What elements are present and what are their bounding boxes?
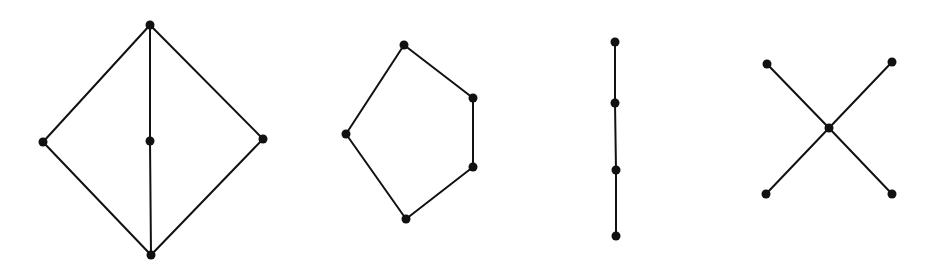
edge-center-br bbox=[829, 128, 892, 194]
node-center bbox=[825, 124, 834, 133]
edge-center-tl bbox=[767, 64, 829, 128]
graph-star-4 bbox=[762, 58, 897, 199]
edge-b-e bbox=[43, 142, 151, 255]
node-e bbox=[342, 130, 351, 139]
edge-center-bl bbox=[766, 128, 829, 194]
node-a bbox=[146, 21, 155, 30]
node-d bbox=[612, 232, 621, 241]
edge-a-b bbox=[43, 25, 150, 142]
graph-diamond-with-subdivided-diagonal bbox=[39, 21, 268, 260]
node-c bbox=[469, 163, 478, 172]
node-d bbox=[259, 135, 268, 144]
node-d bbox=[402, 215, 411, 224]
node-a bbox=[611, 38, 620, 47]
graph-path-4 bbox=[611, 38, 621, 241]
node-b bbox=[611, 99, 620, 108]
node-c bbox=[612, 166, 621, 175]
node-a bbox=[400, 41, 409, 50]
edge-d-e bbox=[151, 139, 263, 255]
node-tl bbox=[763, 60, 772, 69]
node-c bbox=[146, 137, 155, 146]
graph-pentagon-cycle bbox=[342, 41, 478, 224]
edge-center-tr bbox=[829, 62, 892, 128]
node-tr bbox=[888, 58, 897, 67]
node-bl bbox=[762, 190, 771, 199]
edge-a-d bbox=[150, 25, 263, 139]
edge-a-b bbox=[404, 45, 473, 98]
graph-diagram-canvas bbox=[0, 0, 930, 274]
edge-c-d bbox=[406, 167, 473, 219]
node-b bbox=[469, 94, 478, 103]
node-e bbox=[147, 251, 156, 260]
edge-c-e bbox=[150, 141, 151, 255]
edge-e-a bbox=[346, 45, 404, 134]
node-b bbox=[39, 138, 48, 147]
edge-b-c bbox=[615, 103, 616, 170]
edge-d-e bbox=[346, 134, 406, 219]
node-br bbox=[888, 190, 897, 199]
